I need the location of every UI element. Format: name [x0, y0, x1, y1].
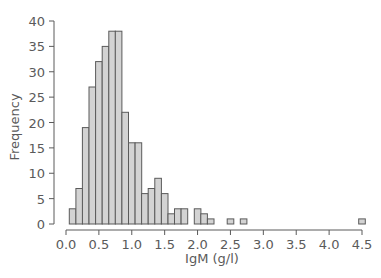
y-tick-label: 0 [37, 217, 45, 232]
histogram-bar [102, 46, 109, 224]
histogram-bar [201, 214, 208, 224]
histogram-bar [82, 128, 89, 224]
histogram-bar [207, 219, 214, 224]
histogram-bar [89, 87, 96, 224]
histogram-bars [69, 31, 365, 224]
histogram-bar [194, 209, 201, 224]
y-tick-label: 35 [28, 39, 45, 54]
histogram-bar [181, 209, 188, 224]
histogram-bar [109, 31, 116, 224]
y-tick-label: 40 [28, 14, 45, 29]
y-tick-label: 30 [28, 65, 45, 80]
y-tick-label: 15 [28, 141, 45, 156]
x-tick-label: 4.0 [319, 237, 340, 252]
y-axis: 0510152025303540 [28, 14, 54, 232]
histogram-bar [129, 143, 136, 224]
x-tick-label: 3.5 [286, 237, 307, 252]
y-tick-label: 25 [28, 90, 45, 105]
x-tick-label: 1.0 [121, 237, 142, 252]
x-tick-label: 2.5 [220, 237, 241, 252]
x-tick-label: 2.0 [187, 237, 208, 252]
histogram-bar [148, 189, 155, 225]
histogram-bar [168, 214, 175, 224]
histogram-bar [240, 219, 247, 224]
x-tick-label: 3.0 [253, 237, 274, 252]
x-tick-label: 1.5 [154, 237, 175, 252]
x-tick-label: 0.5 [89, 237, 110, 252]
histogram-bar [135, 143, 142, 224]
histogram-chart: 0510152025303540 0.00.51.01.52.02.53.03.… [0, 0, 381, 278]
y-tick-label: 10 [28, 166, 45, 181]
histogram-bar [122, 112, 129, 224]
histogram-bar [115, 31, 122, 224]
x-axis: 0.00.51.01.52.02.53.03.54.04.5 [56, 230, 373, 252]
y-axis-title: Frequency [7, 93, 22, 160]
x-tick-label: 4.5 [352, 237, 373, 252]
y-tick-label: 20 [28, 116, 45, 131]
histogram-bar [359, 219, 366, 224]
y-tick-label: 5 [37, 192, 45, 207]
x-axis-title: IgM (g/l) [185, 251, 239, 266]
histogram-bar [175, 209, 182, 224]
histogram-bar [96, 62, 103, 224]
histogram-bar [142, 194, 149, 224]
histogram-bar [155, 178, 162, 224]
histogram-bar [227, 219, 234, 224]
histogram-bar [161, 194, 168, 224]
x-tick-label: 0.0 [56, 237, 77, 252]
histogram-bar [69, 209, 76, 224]
histogram-bar [76, 189, 83, 225]
